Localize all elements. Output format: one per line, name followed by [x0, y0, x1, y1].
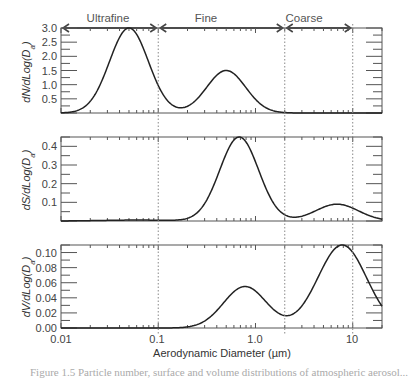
ylabel-number: dN/dLog(Da) [20, 41, 37, 103]
region-label-coarse: Coarse [285, 12, 322, 24]
ytick-label: 0.4 [42, 140, 57, 152]
xtick-label-2: 1.0 [247, 333, 262, 345]
ytick-label: 0.08 [36, 262, 57, 274]
ytick-label: 1.0 [42, 79, 57, 91]
plot-frame [61, 245, 382, 328]
ytick-label: 0.1 [42, 196, 57, 208]
plot-frame [61, 28, 382, 113]
ytick-label: 0.10 [36, 247, 57, 259]
ytick-label: 0.3 [42, 159, 57, 171]
svg-text:dS/dLog(Da): dS/dLog(Da) [20, 149, 37, 210]
panel-1: 0.10.20.30.4 [42, 137, 382, 221]
xtick-label-0: 0.01 [50, 333, 71, 345]
ytick-label: 0.5 [42, 93, 57, 105]
figure-caption: Figure 1.5 Particle number, surface and … [30, 366, 408, 378]
svg-text:dN/dLog(Da): dN/dLog(Da) [20, 41, 37, 103]
ylabel-volume: dV/dLog(Da) [20, 256, 37, 317]
panel-0: 0.51.01.52.02.53.0 [42, 22, 382, 113]
ytick-label: 3.0 [42, 22, 57, 34]
region-label-ultrafine: Ultrafine [87, 12, 130, 24]
distribution-curve [61, 137, 382, 221]
x-axis-title: Aerodynamic Diameter (µm) [153, 347, 291, 359]
ytick-label: 0.2 [42, 178, 57, 190]
distribution-curve [61, 28, 382, 113]
ytick-label: 0.02 [36, 307, 57, 319]
ylabel-surface: dS/dLog(Da) [20, 149, 37, 210]
xtick-label-3: 10 [346, 333, 358, 345]
xtick-label-1: 0.1 [149, 333, 164, 345]
region-label-fine: Fine [195, 12, 217, 24]
svg-text:dV/dLog(Da): dV/dLog(Da) [20, 256, 37, 317]
ytick-label: 1.5 [42, 65, 57, 77]
region-header: Ultrafine Fine Coarse [63, 12, 351, 32]
ytick-label: 2.5 [42, 36, 57, 48]
ytick-label: 2.0 [42, 50, 57, 62]
distribution-curve [61, 245, 382, 328]
panel-2: 0.000.020.040.060.080.10 [36, 245, 382, 334]
ytick-label: 0.04 [36, 292, 57, 304]
plot-frame [61, 137, 382, 221]
ytick-label: 0.06 [36, 277, 57, 289]
